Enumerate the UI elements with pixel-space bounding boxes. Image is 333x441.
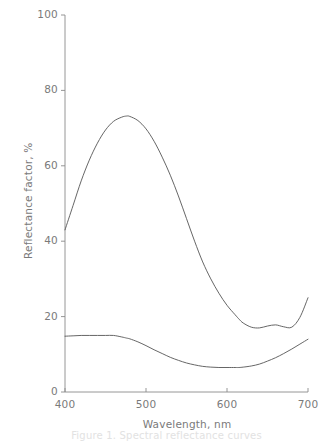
y-tick-label: 0 bbox=[51, 385, 58, 397]
x-axis-ticks bbox=[65, 388, 308, 392]
x-tick-label: 700 bbox=[288, 398, 328, 410]
y-axis-ticks bbox=[61, 15, 65, 392]
x-tick-label: 500 bbox=[126, 398, 166, 410]
y-tick-label: 20 bbox=[44, 310, 58, 322]
y-tick-label: 40 bbox=[44, 234, 58, 246]
x-tick-label: 400 bbox=[45, 398, 85, 410]
data-line-lower-curve bbox=[65, 335, 308, 367]
y-tick-label: 80 bbox=[44, 83, 58, 95]
figure-caption: Figure 1. Spectral reflectance curves bbox=[0, 430, 333, 441]
y-tick-label: 60 bbox=[44, 159, 58, 171]
data-line-upper-curve bbox=[65, 116, 308, 328]
data-series-group bbox=[65, 116, 308, 368]
x-axis-label: Wavelength, nm bbox=[0, 418, 333, 430]
x-tick-label: 600 bbox=[207, 398, 247, 410]
y-tick-label: 100 bbox=[37, 8, 58, 20]
y-axis-label: Reflectance factor, % bbox=[22, 142, 34, 259]
